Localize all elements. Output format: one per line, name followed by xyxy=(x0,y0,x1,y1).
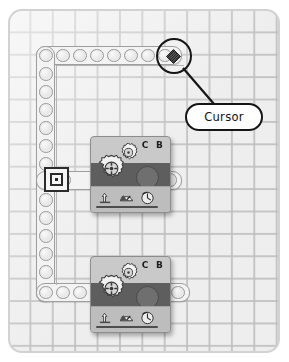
beam-hole xyxy=(39,193,53,207)
duration-rotation-icon[interactable] xyxy=(139,310,156,325)
move-block-ports-label: C B xyxy=(142,140,165,150)
move-block-body: C B xyxy=(90,136,171,213)
move-block-underline xyxy=(96,326,158,329)
move-block-ports-label: C B xyxy=(142,260,165,270)
beam-hole xyxy=(39,103,53,117)
cursor-callout: Cursor xyxy=(185,103,263,131)
beam-hole xyxy=(171,286,185,300)
duration-rotation-icon[interactable] xyxy=(139,190,156,205)
direction-arrow-icon[interactable] xyxy=(97,310,114,325)
beam-hole xyxy=(73,286,87,300)
move-block-2[interactable]: C B xyxy=(90,256,171,333)
beam-hole xyxy=(39,85,53,99)
gear-small-icon xyxy=(118,142,139,163)
beam-hole xyxy=(39,247,53,261)
beam-hole xyxy=(73,49,87,63)
move-block-1[interactable]: C B xyxy=(90,136,171,213)
beam-hole xyxy=(39,49,53,63)
move-block-body: C B xyxy=(90,256,171,333)
beam-hole xyxy=(39,265,53,279)
cursor-diamond-icon[interactable] xyxy=(166,49,181,64)
beam-hole xyxy=(107,49,121,63)
beam-hole xyxy=(141,49,155,63)
cursor-callout-label: Cursor xyxy=(204,110,244,124)
beam-hole xyxy=(39,229,53,243)
beam-hole xyxy=(56,49,70,63)
start-marker-inner xyxy=(50,173,63,186)
beam-hole xyxy=(90,49,104,63)
sequence-beam-start-marker[interactable] xyxy=(44,167,69,192)
beam-hole xyxy=(39,286,53,300)
beam-hole xyxy=(39,121,53,135)
beam-hole xyxy=(39,139,53,153)
power-gauge-icon[interactable] xyxy=(118,190,135,205)
gear-small-icon xyxy=(118,262,139,283)
beam-hole xyxy=(56,286,70,300)
nxt-g-program-canvas[interactable]: C B xyxy=(8,9,280,353)
direction-arrow-icon[interactable] xyxy=(97,190,114,205)
beam-hole xyxy=(39,211,53,225)
beam-hole xyxy=(39,67,53,81)
power-gauge-icon[interactable] xyxy=(118,310,135,325)
move-block-underline xyxy=(96,206,158,209)
beam-hole xyxy=(124,49,138,63)
